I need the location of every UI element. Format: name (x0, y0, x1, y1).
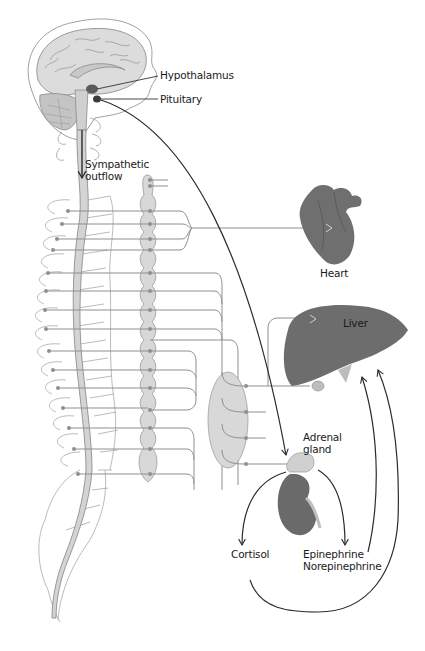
sympathetic-outflow-label-line1: Sympathetic (85, 158, 149, 170)
liver-label: Liver (343, 317, 368, 329)
cortisol-label: Cortisol (231, 548, 269, 560)
head-brain-illustration (28, 19, 156, 160)
adrenal-gland-label-line1: Adrenal (303, 431, 342, 443)
kidney-adrenal-illustration (278, 453, 320, 536)
synapse-dots (43, 178, 152, 476)
pituitary-label: Pituitary (160, 93, 202, 105)
norepinephrine-label: Norepinephrine (303, 560, 381, 572)
pituitary-marker (93, 96, 101, 103)
pituitary-to-adrenal-arrow (101, 100, 286, 455)
heart-label: Heart (320, 267, 348, 279)
heart-illustration (300, 185, 362, 264)
catecholamines-to-liver-arrow (362, 377, 376, 552)
epinephrine-label: Epinephrine (303, 548, 364, 560)
sympathetic-outflow-label-line2: outflow (85, 170, 122, 182)
hypothalamus-label: Hypothalamus (160, 69, 234, 81)
adrenal-to-catecholamines-arrow (318, 470, 345, 545)
hypothalamus-marker (86, 85, 98, 94)
adrenal-gland-label-line2: gland (303, 443, 331, 455)
spinal-column (35, 130, 118, 622)
